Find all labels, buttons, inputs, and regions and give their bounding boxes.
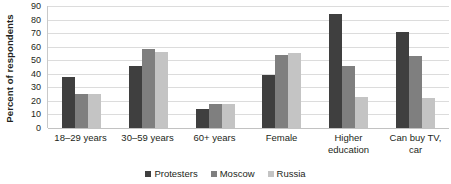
x-axis-tick-label: 18–29 years bbox=[47, 130, 114, 166]
legend-item-label: Russia bbox=[277, 169, 306, 179]
legend-item[interactable]: Moscow bbox=[211, 169, 255, 179]
chart-legend: ProtestersMoscowRussia bbox=[0, 166, 451, 182]
x-axis-tick-labels: 18–29 years30–59 years60+ yearsFemaleHig… bbox=[47, 130, 449, 166]
bar bbox=[288, 53, 301, 128]
y-axis-tick-label: 50 bbox=[31, 56, 41, 65]
bar bbox=[62, 77, 75, 129]
y-axis-tick-label: 30 bbox=[31, 83, 41, 92]
bar-group bbox=[382, 6, 449, 128]
x-axis-tick-label: Female bbox=[248, 130, 315, 166]
y-axis-tick-labels: 9080706050403020100 bbox=[20, 6, 44, 128]
y-axis-tick-label: 0 bbox=[36, 124, 41, 133]
legend-item[interactable]: Protesters bbox=[145, 169, 197, 179]
bar-chart-figure: Percent of respondents 90807060504030201… bbox=[0, 0, 451, 184]
bar bbox=[222, 104, 235, 128]
plot-area bbox=[47, 6, 449, 128]
x-axis-tick-label: Can buy TV, car bbox=[382, 130, 449, 166]
bar-group bbox=[182, 6, 249, 128]
y-axis-tick-label: 10 bbox=[31, 110, 41, 119]
bar bbox=[155, 52, 168, 128]
bar bbox=[209, 104, 222, 128]
bar-groups bbox=[48, 6, 449, 128]
legend-item-label: Moscow bbox=[220, 169, 255, 179]
plot-wrapper: 9080706050403020100 bbox=[20, 6, 451, 136]
legend-item[interactable]: Russia bbox=[268, 169, 306, 179]
y-axis-tick-label: 90 bbox=[31, 2, 41, 11]
bar bbox=[409, 56, 422, 128]
bar bbox=[262, 75, 275, 128]
x-axis-tick-label: Higher education bbox=[315, 130, 382, 166]
bar-group bbox=[115, 6, 182, 128]
gridline bbox=[48, 128, 449, 129]
bar bbox=[88, 94, 101, 128]
x-axis-tick-label: 60+ years bbox=[181, 130, 248, 166]
y-axis-tick-label: 70 bbox=[31, 29, 41, 38]
bar bbox=[275, 55, 288, 128]
y-axis-title: Percent of respondents bbox=[0, 0, 18, 136]
legend-swatch-icon bbox=[268, 171, 274, 177]
bar bbox=[355, 97, 368, 128]
bar bbox=[129, 66, 142, 128]
bar-group bbox=[48, 6, 115, 128]
bar bbox=[329, 14, 342, 128]
bar bbox=[142, 49, 155, 128]
bar bbox=[75, 94, 88, 128]
legend-swatch-icon bbox=[211, 171, 217, 177]
y-axis-tick-label: 20 bbox=[31, 96, 41, 105]
x-axis-tick-label: 30–59 years bbox=[114, 130, 181, 166]
y-axis-title-text: Percent of respondents bbox=[4, 14, 15, 122]
legend-swatch-icon bbox=[145, 171, 151, 177]
bar bbox=[196, 109, 209, 128]
bar bbox=[422, 98, 435, 128]
y-axis-tick-label: 40 bbox=[31, 69, 41, 78]
legend-item-label: Protesters bbox=[154, 169, 197, 179]
bar bbox=[396, 32, 409, 128]
bar-group bbox=[315, 6, 382, 128]
bar bbox=[342, 66, 355, 128]
y-axis-tick-label: 60 bbox=[31, 42, 41, 51]
bar-group bbox=[248, 6, 315, 128]
y-axis-tick-label: 80 bbox=[31, 15, 41, 24]
